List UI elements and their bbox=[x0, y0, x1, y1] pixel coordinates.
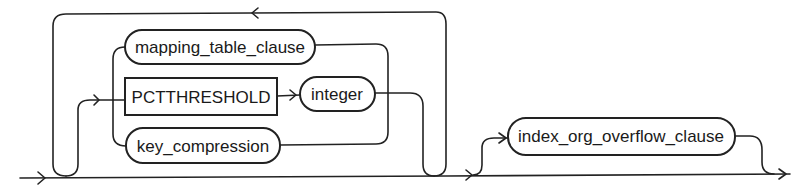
integer-node[interactable]: integer bbox=[300, 77, 375, 111]
key-compression-node[interactable]: key_compression bbox=[126, 128, 280, 163]
mapping-table-clause-node[interactable]: mapping_table_clause bbox=[125, 30, 315, 64]
syntax-diagram: mapping_table_clause PCTTHRESHOLD intege… bbox=[0, 0, 798, 196]
pctthreshold-keyword-node[interactable]: PCTTHRESHOLD bbox=[125, 78, 277, 115]
continue-arrow-icon bbox=[466, 170, 472, 180]
svg-text:index_org_overflow_clause: index_org_overflow_clause bbox=[518, 127, 724, 146]
main-baseline bbox=[20, 172, 790, 184]
group-entry bbox=[66, 47, 126, 176]
svg-text:PCTTHRESHOLD: PCTTHRESHOLD bbox=[132, 88, 271, 107]
svg-text:integer: integer bbox=[311, 85, 363, 104]
index-org-overflow-clause-node[interactable]: index_org_overflow_clause bbox=[508, 118, 735, 155]
svg-text:mapping_table_clause: mapping_table_clause bbox=[135, 38, 305, 57]
svg-text:key_compression: key_compression bbox=[137, 137, 269, 156]
